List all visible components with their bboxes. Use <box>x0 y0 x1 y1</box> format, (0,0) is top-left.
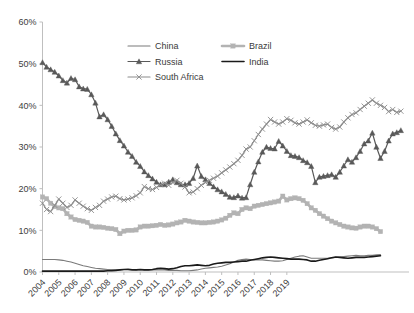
data-point-marker <box>313 208 317 212</box>
series-china <box>43 255 381 271</box>
data-point-marker <box>93 225 97 229</box>
data-point-marker <box>374 144 379 149</box>
data-point-marker <box>358 225 362 229</box>
data-point-marker <box>357 148 362 153</box>
data-point-marker <box>130 228 134 232</box>
x-tick-label: 2018 <box>254 277 275 298</box>
data-point-marker <box>231 44 235 48</box>
data-point-marker <box>289 196 293 200</box>
legend-item-russia[interactable]: Russia <box>128 57 183 67</box>
data-point-marker <box>183 218 187 222</box>
data-point-marker <box>370 225 374 229</box>
data-point-marker <box>105 226 109 230</box>
data-point-marker <box>138 225 142 229</box>
data-point-marker <box>179 220 183 224</box>
y-tick-label: 20% <box>18 184 36 194</box>
data-point-marker <box>235 193 240 198</box>
data-point-marker <box>256 203 260 207</box>
legend-item-india[interactable]: India <box>222 57 269 67</box>
data-point-marker <box>76 84 81 89</box>
data-point-marker <box>142 224 146 228</box>
data-point-marker <box>207 220 211 224</box>
data-point-marker <box>199 221 203 225</box>
y-tick-label: 40% <box>18 101 36 111</box>
x-tick-label: 2007 <box>75 277 96 298</box>
data-point-marker <box>85 220 89 224</box>
data-point-marker <box>264 144 269 149</box>
data-point-marker <box>114 227 118 231</box>
legend-item-china[interactable]: China <box>128 41 179 51</box>
data-point-marker <box>382 148 387 153</box>
series-line <box>43 255 381 271</box>
data-point-marker <box>171 222 175 226</box>
legend-label: Brazil <box>249 41 272 51</box>
data-point-marker <box>232 211 236 215</box>
data-point-marker <box>236 211 240 215</box>
x-tick-label: 2005 <box>42 277 63 298</box>
data-point-marker <box>40 60 45 65</box>
legend-item-south-africa[interactable]: South Africa <box>128 72 204 82</box>
y-tick-label: 30% <box>18 142 36 152</box>
data-point-marker <box>195 163 200 168</box>
data-point-marker <box>187 219 191 223</box>
data-point-marker <box>134 228 138 232</box>
data-point-marker <box>224 216 228 220</box>
data-point-marker <box>93 100 98 105</box>
data-point-marker <box>154 223 158 227</box>
data-point-marker <box>101 225 105 229</box>
data-point-marker <box>68 76 73 81</box>
legend: ChinaBrazilRussiaIndiaSouth Africa <box>128 41 272 82</box>
data-point-marker <box>89 224 93 228</box>
data-point-marker <box>247 182 252 187</box>
y-tick-label: 0% <box>23 267 36 277</box>
data-point-marker <box>281 194 285 198</box>
data-point-marker <box>334 221 338 225</box>
data-point-marker <box>73 217 77 221</box>
data-point-marker <box>175 221 179 225</box>
x-tick-label: 2010 <box>124 277 145 298</box>
data-point-marker <box>203 221 207 225</box>
data-point-marker <box>301 198 305 202</box>
data-point-marker <box>81 219 85 223</box>
legend-label: South Africa <box>155 72 204 82</box>
x-tick-label: 2008 <box>91 277 112 298</box>
legend-item-brazil[interactable]: Brazil <box>222 41 272 51</box>
data-point-marker <box>293 196 297 200</box>
series-russia <box>40 60 404 200</box>
data-point-marker <box>162 223 166 227</box>
data-point-marker <box>44 196 48 200</box>
data-point-marker <box>260 202 264 206</box>
data-point-marker <box>211 220 215 224</box>
y-tick-label: 10% <box>18 226 36 236</box>
x-axis-ticks: 2004200520062007200820092010201120122013… <box>26 272 292 299</box>
series-line <box>43 256 381 271</box>
data-point-marker <box>398 128 403 133</box>
data-point-marker <box>126 228 130 232</box>
x-tick-label: 2004 <box>26 277 47 298</box>
data-point-marker <box>167 223 171 227</box>
data-point-marker <box>252 204 256 208</box>
legend-label: China <box>155 41 179 51</box>
x-tick-label: 2015 <box>205 277 226 298</box>
data-point-marker <box>362 224 366 228</box>
data-point-marker <box>256 159 261 164</box>
data-point-marker <box>40 195 44 199</box>
data-point-marker <box>305 201 309 205</box>
x-tick-label: 2011 <box>141 277 162 298</box>
data-point-marker <box>252 169 257 174</box>
data-point-marker <box>378 229 382 233</box>
series-india <box>43 256 381 271</box>
data-point-marker <box>110 226 114 230</box>
data-point-marker <box>65 211 69 215</box>
data-point-marker <box>219 218 223 222</box>
x-tick-label: 2017 <box>238 277 259 298</box>
data-point-marker <box>354 226 358 230</box>
data-point-marker <box>97 225 101 229</box>
x-tick-label: 2014 <box>189 277 210 298</box>
legend-label: Russia <box>155 57 183 67</box>
data-point-marker <box>150 224 154 228</box>
x-tick-label: 2009 <box>108 277 129 298</box>
data-point-marker <box>77 218 81 222</box>
data-point-marker <box>276 199 280 203</box>
data-point-marker <box>248 206 252 210</box>
